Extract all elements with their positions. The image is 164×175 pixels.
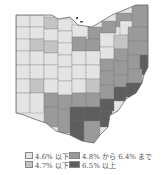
legend-swatch-icon xyxy=(69,161,80,168)
ohio-county-map xyxy=(12,3,152,145)
legend-swatch-icon xyxy=(69,152,80,159)
legend-label: 6.5% 以上 xyxy=(82,160,116,170)
legend-label: 4.7% 以下 xyxy=(35,160,69,170)
legend-swatch-icon xyxy=(25,152,33,159)
map-legend: 4.6% 以下 4.8% から 6.4% まで 4.7% 以下 6.5% 以上 xyxy=(25,151,164,169)
legend-swatch-icon xyxy=(25,161,33,168)
legend-item-high: 6.5% 以上 xyxy=(69,160,116,170)
legend-item-low: 4.7% 以下 xyxy=(25,160,69,170)
